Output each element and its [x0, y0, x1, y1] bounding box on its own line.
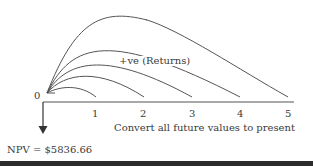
curve-year-3 — [47, 65, 192, 97]
tick-label-5: 5 — [285, 109, 291, 119]
tick-label-1: 1 — [92, 109, 98, 119]
returns-label: +ve (Returns) — [117, 56, 192, 66]
npv-arrow-head — [39, 126, 48, 134]
npv-value-label: NPV = $5836.66 — [7, 145, 92, 155]
axis-caption: Convert all future values to present — [114, 123, 295, 133]
tick-label-2: 2 — [140, 109, 146, 119]
tick-label-4: 4 — [237, 109, 243, 119]
tick-label-3: 3 — [189, 109, 195, 119]
origin-label: 0 — [34, 91, 40, 101]
curve-year-2 — [47, 76, 144, 97]
curve-year-1 — [47, 87, 96, 97]
cash-flow-diagram — [0, 0, 313, 168]
bottom-divider-bar — [0, 161, 313, 166]
